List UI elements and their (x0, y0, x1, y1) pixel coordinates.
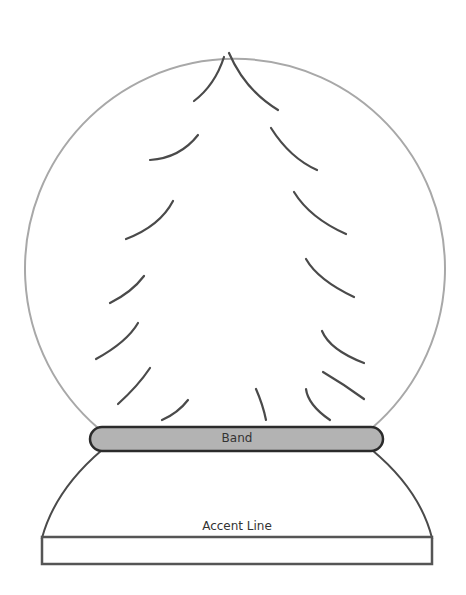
tree (96, 53, 364, 420)
tree-branch-2-left (150, 135, 198, 160)
tree-branch-top-left (194, 57, 224, 101)
tree-trunk-line (256, 389, 266, 420)
tree-branch-3-right (294, 192, 346, 234)
band-label: Band (222, 431, 253, 445)
tree-branch-5-right (322, 331, 364, 363)
tree-branch-4-left (110, 276, 144, 303)
tree-branch-4-right (306, 259, 354, 297)
tree-branch-2-right (271, 128, 317, 170)
snow-globe-diagram (0, 0, 466, 595)
tree-branch-6-left (118, 368, 150, 404)
tree-branch-5-left (96, 323, 138, 359)
tree-branch-7-left (162, 400, 188, 420)
tree-branch-7-right-inner (306, 389, 330, 420)
accent-line-label: Accent Line (202, 519, 272, 533)
tree-branch-6-right (323, 372, 364, 399)
globe-outline (25, 59, 445, 428)
base-plinth (42, 537, 432, 564)
tree-branch-3-left (126, 201, 173, 239)
